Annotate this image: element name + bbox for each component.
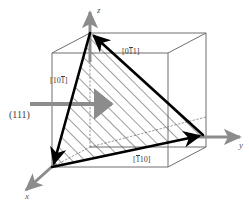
direction-label-bar110: [110]: [133, 156, 150, 164]
dir1-post: ]: [65, 76, 68, 85]
direction-label-0bar11: [011]: [122, 48, 139, 56]
dir2-post: 10]: [140, 155, 151, 164]
diagram-canvas: [0, 0, 249, 206]
dir0-bar: 1: [129, 48, 133, 56]
dir1-pre: [10: [50, 76, 61, 85]
plane-label-111: (111): [9, 110, 30, 120]
dir2-bar: 1: [136, 156, 140, 164]
dir0-post: 1]: [133, 47, 140, 56]
direction-label-10bar1: [101]: [50, 77, 67, 85]
axis-label-y: y: [239, 141, 243, 150]
dir1-bar: 1: [61, 77, 65, 85]
axis-label-z: z: [97, 6, 101, 15]
crystal-plane-figure: z y x (111) [011] [101] [110]: [0, 0, 249, 206]
axis-label-x: x: [25, 192, 29, 201]
dir0-pre: [0: [122, 47, 129, 56]
